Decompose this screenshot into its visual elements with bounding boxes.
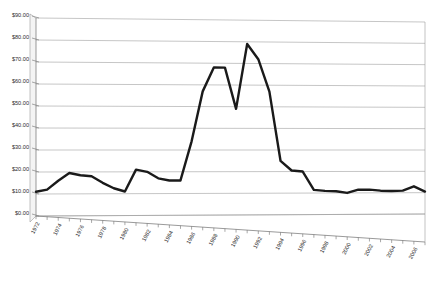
- x-axis-label-1980: 1980: [118, 227, 129, 241]
- x-axis-label-1990: 1990: [230, 234, 241, 248]
- x-axis-line: [36, 216, 425, 242]
- x-axis-label-2002: 2002: [363, 243, 374, 257]
- x-axis-label-1978: 1978: [96, 225, 107, 239]
- x-axis-label-2000: 2000: [341, 242, 352, 256]
- x-axis-label-1984: 1984: [163, 230, 174, 244]
- x-axis-label-2004: 2004: [385, 245, 396, 259]
- y-axis-label-60: $60.00: [12, 78, 29, 84]
- x-axis-label-1988: 1988: [207, 233, 218, 247]
- y-axis-label-10: $10.00: [12, 188, 29, 194]
- x-axis-label-2006: 2006: [407, 246, 418, 260]
- x-axis-label-1974: 1974: [52, 222, 63, 236]
- y-axis-label-20: $20.00: [12, 166, 29, 172]
- y-axis-label-40: $40.00: [12, 122, 29, 128]
- y-axis-label-90: $90.00: [12, 12, 29, 18]
- x-axis-label-1992: 1992: [252, 236, 263, 250]
- line-chart-3d: $0.00$10.00$20.00$30.00$40.00$50.00$60.0…: [0, 0, 443, 291]
- y-axis-label-0: $0.00: [15, 210, 29, 216]
- x-axis-label-1996: 1996: [296, 239, 307, 253]
- chart-container: $0.00$10.00$20.00$30.00$40.00$50.00$60.0…: [0, 0, 443, 291]
- x-axis-label-1976: 1976: [74, 224, 85, 238]
- x-axis-label-1986: 1986: [185, 231, 196, 245]
- y-axis-label-30: $30.00: [12, 144, 29, 150]
- x-axis-label-1972: 1972: [30, 221, 41, 235]
- plot-side-wall: [30, 14, 36, 222]
- x-axis-label-1982: 1982: [141, 228, 152, 242]
- y-axis-label-50: $50.00: [12, 100, 29, 106]
- y-axis-label-70: $70.00: [12, 56, 29, 62]
- x-axis-label-1994: 1994: [274, 237, 285, 251]
- x-axis-label-1998: 1998: [319, 240, 330, 254]
- y-axis-label-80: $80.00: [12, 34, 29, 40]
- plot-floor: [36, 18, 425, 216]
